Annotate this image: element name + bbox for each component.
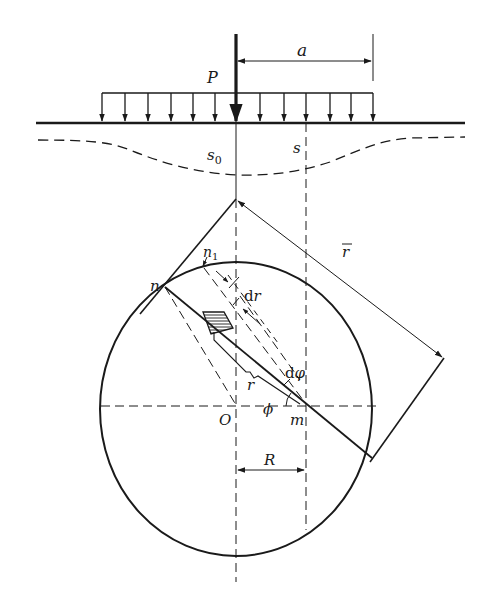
label-O: O <box>219 411 231 429</box>
label-dphi: dφ <box>285 364 306 382</box>
label-rbar: r <box>342 243 352 261</box>
label-n1: n1 <box>203 244 218 262</box>
tangent-left <box>140 199 236 314</box>
svg-text:r: r <box>342 243 350 261</box>
label-phi: ϕ <box>263 400 273 418</box>
label-s: s <box>293 139 301 157</box>
label-m: m <box>290 411 304 429</box>
label-P: P <box>206 68 218 87</box>
dashed-n-O <box>165 287 236 405</box>
chord-n-m <box>165 287 372 458</box>
settlement-diagram: P a s0 s <box>0 0 488 600</box>
label-a: a <box>297 40 307 60</box>
rbar-dimension <box>238 201 442 357</box>
label-R: R <box>263 451 275 469</box>
tangent-right <box>370 358 444 462</box>
label-n: n <box>150 277 160 295</box>
settlement-curve <box>38 137 465 175</box>
label-dr: dr <box>244 287 262 305</box>
label-s0: s0 <box>207 146 222 167</box>
n1-arrow <box>216 271 228 282</box>
label-r: r <box>247 376 255 394</box>
